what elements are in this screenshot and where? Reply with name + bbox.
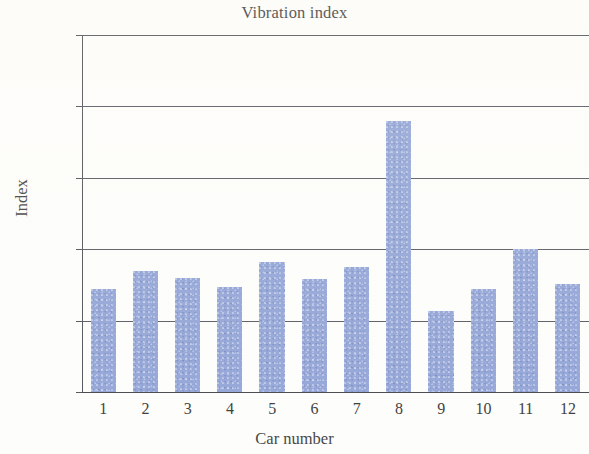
y-tick-mark-1 [76, 249, 82, 250]
bar [133, 271, 158, 392]
x-tick-label: 4 [209, 401, 251, 417]
x-tick-label: 5 [251, 401, 293, 417]
y-tick-mark-0.5 [76, 321, 82, 322]
y-tick-mark-2 [76, 106, 82, 107]
x-axis-title: Car number [0, 429, 589, 449]
bar [513, 249, 538, 392]
x-tick-label: 3 [167, 401, 209, 417]
x-tick-label: 1 [82, 401, 124, 417]
bar [91, 289, 116, 392]
y-tick-mark-2.5 [76, 35, 82, 36]
y-axis-line [82, 35, 83, 393]
bar [471, 289, 496, 392]
bar [175, 278, 200, 392]
bar [259, 262, 284, 392]
bar [428, 311, 453, 392]
gridline-2.5 [82, 35, 589, 36]
plot-area: 2.521.510.50 123456789101112 [82, 35, 589, 392]
x-tick-label: 7 [336, 401, 378, 417]
y-tick-mark-0 [76, 392, 82, 393]
x-tick-label: 9 [420, 401, 462, 417]
x-tick-label: 12 [547, 401, 589, 417]
chart-title: Vibration index [0, 3, 589, 23]
gridline-0 [82, 392, 589, 393]
chart-figure: Vibration index Index 2.521.510.50 12345… [0, 0, 589, 454]
bar [217, 287, 242, 392]
gridline-2 [82, 106, 589, 107]
x-tick-label: 2 [124, 401, 166, 417]
y-tick-mark-1.5 [76, 178, 82, 179]
bar [555, 284, 580, 393]
x-tick-label: 6 [293, 401, 335, 417]
bar [386, 121, 411, 392]
bar [302, 279, 327, 392]
x-tick-label: 11 [505, 401, 547, 417]
gridline-1.5 [82, 178, 589, 179]
y-axis-title: Index [12, 158, 32, 238]
x-tick-label: 8 [378, 401, 420, 417]
x-tick-label: 10 [462, 401, 504, 417]
bar [344, 267, 369, 392]
